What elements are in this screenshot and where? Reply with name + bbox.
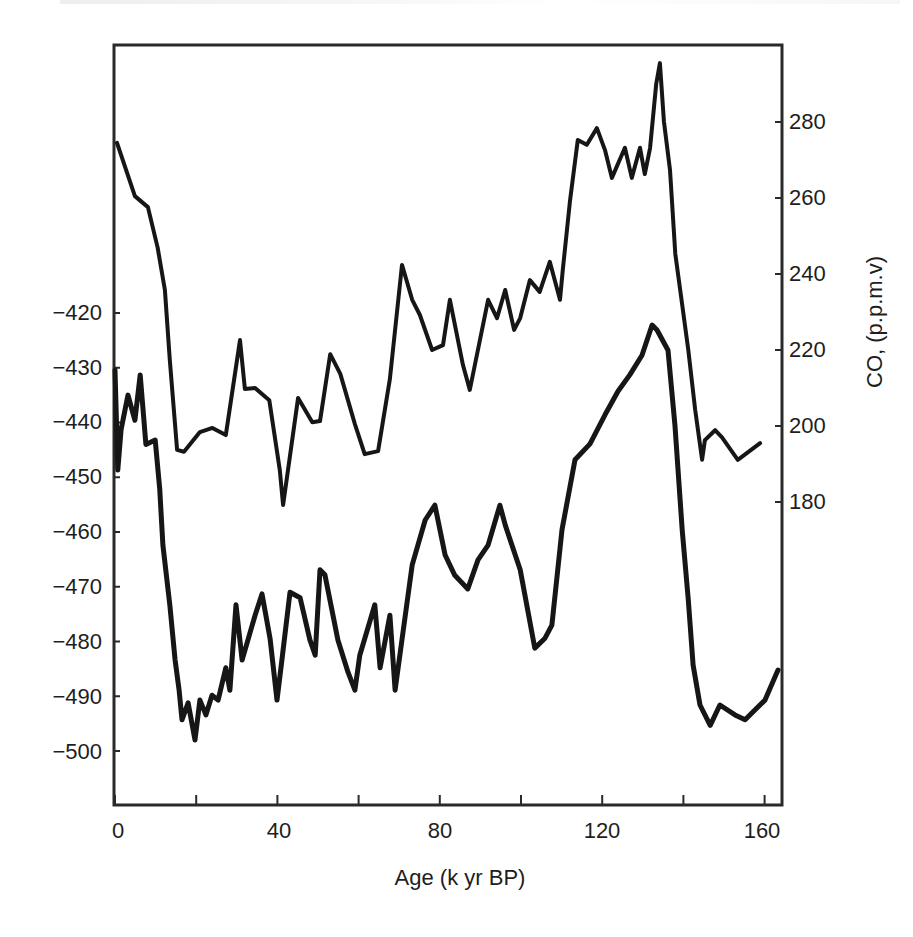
y-left-tick-label: −490 xyxy=(30,686,102,708)
y-left-tick-label: −480 xyxy=(30,631,102,653)
y-left-tick-label: −460 xyxy=(30,521,102,543)
y-left-tick-label: −470 xyxy=(30,576,102,598)
x-tick-label: 120 xyxy=(572,820,632,842)
co2-line xyxy=(117,63,760,505)
y-right-tick-label: 240 xyxy=(789,263,826,285)
x-axis-title: Age (k yr BP) xyxy=(330,865,590,891)
y-right-tick-label: 180 xyxy=(789,491,826,513)
y-right-tick-label: 260 xyxy=(789,187,826,209)
deuterium-line xyxy=(115,325,778,740)
y-left-tick-label: −440 xyxy=(30,411,102,433)
y-left-tick-label: −430 xyxy=(30,357,102,379)
x-tick-label: 0 xyxy=(88,820,148,842)
x-tick-label: 80 xyxy=(410,820,470,842)
axis-ticks xyxy=(114,122,782,805)
y-right-tick-label: 200 xyxy=(789,415,826,437)
y-right-tick-label: 220 xyxy=(789,339,826,361)
y-left-tick-label: −500 xyxy=(30,741,102,763)
plot-frame xyxy=(114,45,782,805)
y-left-tick-label: −450 xyxy=(30,466,102,488)
x-tick-label: 160 xyxy=(732,820,792,842)
y-right-tick-label: 280 xyxy=(789,111,826,133)
y-left-tick-label: −420 xyxy=(30,302,102,324)
chart-canvas xyxy=(0,0,913,937)
x-tick-label: 40 xyxy=(249,820,309,842)
y-right-axis-title: CO, (p.p.m.v) xyxy=(862,256,888,388)
